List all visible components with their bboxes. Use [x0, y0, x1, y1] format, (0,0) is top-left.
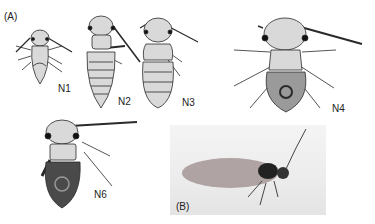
nymph-n6-drawing — [42, 120, 137, 208]
stage-label-n6: N6 — [94, 190, 107, 200]
panel-a-label: (A) — [4, 12, 17, 22]
nymph-n2-drawing — [87, 16, 140, 108]
nymph-n3-drawing — [140, 18, 198, 108]
adult-photo — [170, 125, 326, 215]
stage-label-n1: N1 — [58, 84, 71, 94]
stage-label-n2: N2 — [118, 97, 131, 107]
figure: (A) N1 N2 N3 N4 N6 (B) — [0, 0, 375, 224]
stage-label-n4: N4 — [332, 104, 345, 114]
panel-b-label: (B) — [176, 202, 189, 212]
nymph-n4-drawing — [234, 18, 362, 112]
stage-label-n3: N3 — [182, 98, 195, 108]
nymph-n1-drawing — [16, 30, 72, 84]
adult-insect-photo — [170, 125, 326, 215]
